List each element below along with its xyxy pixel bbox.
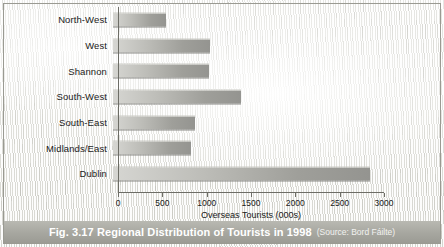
bar-track (113, 84, 444, 110)
bar-track (113, 110, 444, 136)
bar-category-label: West (0, 40, 113, 51)
bar-track (113, 33, 444, 59)
y-axis-line (118, 7, 119, 193)
bar (113, 12, 166, 27)
bar-track (113, 7, 444, 33)
bar-track (113, 135, 444, 161)
x-axis-tick-label: 3000 (375, 198, 394, 208)
bar-row: Shannon (0, 58, 444, 84)
bar-rows: North-WestWestShannonSouth-WestSouth-Eas… (0, 7, 444, 187)
x-axis-tick (340, 193, 341, 197)
bar (113, 89, 241, 104)
bar-row: West (0, 33, 444, 59)
bar-track (113, 161, 444, 187)
x-axis-tick (118, 193, 119, 197)
x-axis-tick (162, 193, 163, 197)
caption-title: Fig. 3.17 Regional Distribution of Touri… (49, 226, 312, 238)
bar-row: North-West (0, 7, 444, 33)
bar-row: Dublin (0, 161, 444, 187)
bar-category-label: South-West (0, 91, 113, 102)
x-axis-tick (251, 193, 252, 197)
bar-category-label: South-East (0, 117, 113, 128)
bar-row: Midlands/East (0, 135, 444, 161)
bar (113, 115, 195, 130)
bar-row: South-East (0, 110, 444, 136)
bar (113, 64, 209, 79)
x-axis-tick-label: 2000 (286, 198, 305, 208)
bar-category-label: Shannon (0, 66, 113, 77)
x-axis-tick (384, 193, 385, 197)
x-axis-tick-label: 0 (116, 198, 121, 208)
x-axis-tick-label: 1500 (242, 198, 261, 208)
bar (113, 141, 191, 156)
bar-track (113, 58, 444, 84)
plot-area: North-WestWestShannonSouth-WestSouth-Eas… (0, 7, 444, 193)
bar-row: South-West (0, 84, 444, 110)
figure-caption-bar: Fig. 3.17 Regional Distribution of Touri… (4, 221, 440, 243)
x-axis-tick (295, 193, 296, 197)
bar (113, 166, 370, 181)
caption-source: (Source: Bord Fáilte) (317, 227, 395, 237)
bar-category-label: North-West (0, 14, 113, 25)
x-axis-title: Overseas Tourists (000s) (118, 210, 384, 220)
x-axis-tick-label: 1000 (197, 198, 216, 208)
x-axis-tick (207, 193, 208, 197)
bar (113, 38, 210, 53)
x-axis-tick-label: 2500 (330, 198, 349, 208)
x-axis-tick-label: 500 (155, 198, 169, 208)
bar-category-label: Dublin (0, 168, 113, 179)
figure-container: North-WestWestShannonSouth-WestSouth-Eas… (0, 0, 444, 247)
bar-category-label: Midlands/East (0, 143, 113, 154)
